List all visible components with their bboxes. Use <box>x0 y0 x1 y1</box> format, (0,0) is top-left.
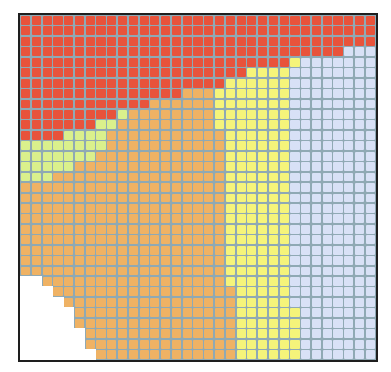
grid-cell-green <box>32 141 41 150</box>
grid-cell-orange <box>53 277 62 286</box>
grid-cell-orange <box>172 277 181 286</box>
grid-cell-blue <box>301 246 310 255</box>
grid-cell-orange <box>193 204 202 213</box>
grid-cell-red <box>118 79 127 88</box>
grid-cell-orange <box>204 100 213 109</box>
grid-cell-blue <box>301 277 310 286</box>
grid-cell-yellow <box>237 173 246 182</box>
grid-cell-red <box>86 37 95 46</box>
grid-cell-red <box>32 47 41 56</box>
grid-cell-yellow <box>247 214 256 223</box>
grid-cell-blue <box>290 68 299 77</box>
grid-cell-orange <box>150 110 159 119</box>
grid-cell-red <box>183 79 192 88</box>
grid-cell-yellow <box>290 329 299 338</box>
grid-cell-blue <box>355 246 364 255</box>
grid-cell-blue <box>333 329 342 338</box>
grid-cell-orange <box>215 340 224 349</box>
grid-cell-red <box>290 26 299 35</box>
grid-cell-blue <box>366 68 375 77</box>
grid-cell-orange <box>161 277 170 286</box>
grid-cell-red <box>75 47 84 56</box>
grid-cell-white <box>20 307 31 318</box>
grid-cell-yellow <box>258 246 267 255</box>
grid-cell-blue <box>333 141 342 150</box>
grid-cell-yellow <box>290 58 299 67</box>
grid-cell-red <box>53 58 62 67</box>
grid-cell-orange <box>204 120 213 129</box>
grid-cell-blue <box>344 194 353 203</box>
grid-cell-red <box>150 37 159 46</box>
grid-cell-orange <box>204 131 213 140</box>
grid-cell-red <box>333 47 342 56</box>
grid-cell-orange <box>193 246 202 255</box>
grid-cell-orange <box>86 204 95 213</box>
grid-cell-orange <box>140 329 149 338</box>
grid-cell-blue <box>366 350 375 359</box>
grid-cell-orange <box>161 214 170 223</box>
grid-cell-orange <box>183 308 192 317</box>
grid-cell-orange <box>161 287 170 296</box>
grid-cell-blue <box>312 68 321 77</box>
grid-cell-orange <box>140 267 149 276</box>
grid-cell-orange <box>226 329 235 338</box>
grid-cell-yellow <box>247 350 256 359</box>
grid-cell-red <box>32 131 41 140</box>
grid-cell-red <box>96 68 105 77</box>
grid-cell-blue <box>301 256 310 265</box>
grid-cell-red <box>247 26 256 35</box>
grid-cell-orange <box>172 246 181 255</box>
grid-cell-blue <box>290 256 299 265</box>
grid-cell-yellow <box>247 319 256 328</box>
grid-cell-yellow <box>280 308 289 317</box>
grid-cell-red <box>258 47 267 56</box>
grid-cell-orange <box>129 120 138 129</box>
grid-cell-orange <box>86 277 95 286</box>
grid-cell-orange <box>215 298 224 307</box>
grid-cell-red <box>269 16 278 25</box>
grid-cell-yellow <box>247 225 256 234</box>
grid-cell-blue <box>333 173 342 182</box>
grid-cell-white <box>74 328 85 339</box>
grid-cell-blue <box>323 141 332 150</box>
grid-cell-yellow <box>237 277 246 286</box>
grid-cell-yellow <box>269 256 278 265</box>
grid-cell-orange <box>75 246 84 255</box>
grid-cell-blue <box>323 100 332 109</box>
grid-cell-red <box>258 16 267 25</box>
grid-cell-red <box>280 37 289 46</box>
grid-cell-orange <box>129 319 138 328</box>
grid-cell-orange <box>129 204 138 213</box>
grid-cell-orange <box>32 235 41 244</box>
grid-cell-blue <box>344 267 353 276</box>
grid-cell-yellow <box>280 152 289 161</box>
grid-cell-yellow <box>237 131 246 140</box>
grid-cell-yellow <box>237 225 246 234</box>
grid-cell-white <box>52 307 63 318</box>
grid-cell-orange <box>193 120 202 129</box>
grid-cell-white <box>74 349 85 360</box>
grid-cell-red <box>258 37 267 46</box>
grid-cell-red <box>355 37 364 46</box>
grid-cell-yellow <box>247 277 256 286</box>
grid-cell-red <box>21 79 30 88</box>
grid-cell-orange <box>75 183 84 192</box>
grid-cell-orange <box>226 340 235 349</box>
grid-cell-yellow <box>247 235 256 244</box>
grid-cell-orange <box>86 256 95 265</box>
grid-cell-orange <box>183 100 192 109</box>
grid-cell-white <box>31 328 42 339</box>
grid-cell-red <box>140 37 149 46</box>
grid-cell-red <box>172 37 181 46</box>
grid-cell-orange <box>129 256 138 265</box>
grid-cell-red <box>43 110 52 119</box>
grid-cell-yellow <box>269 100 278 109</box>
grid-cell-red <box>140 100 149 109</box>
grid-cell-yellow <box>226 89 235 98</box>
grid-cell-red <box>43 79 52 88</box>
grid-cell-yellow <box>247 194 256 203</box>
grid-cell-orange <box>129 287 138 296</box>
grid-cell-orange <box>118 204 127 213</box>
grid-cell-orange <box>53 267 62 276</box>
grid-cell-blue <box>312 204 321 213</box>
